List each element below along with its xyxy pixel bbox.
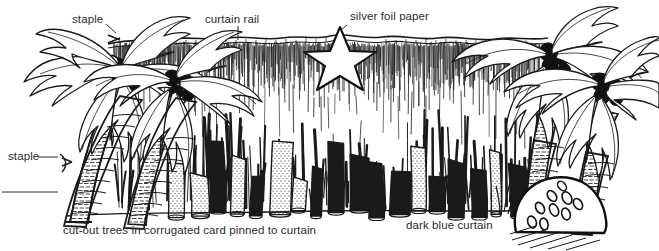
label-staple-top: staple <box>72 13 103 26</box>
label-cut-out-trees: cut-out trees in corrugated card pinned … <box>63 224 316 237</box>
label-dark-blue-curtain: dark blue curtain <box>406 219 493 232</box>
label-curtain-rail: curtain rail <box>205 13 259 26</box>
illustration-canvas: · · · · <box>0 0 659 251</box>
scene-artwork <box>0 0 659 251</box>
label-staple-left: staple <box>8 150 39 163</box>
label-silver-foil-paper: silver foil paper <box>350 10 429 23</box>
